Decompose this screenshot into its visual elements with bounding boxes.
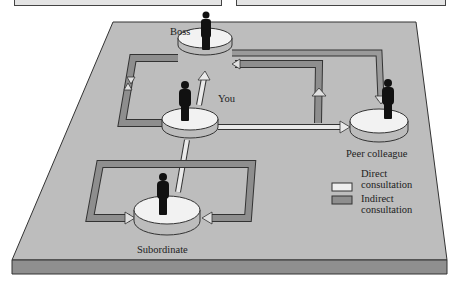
legend-direct-line2: consultation	[361, 179, 412, 190]
peer-disc	[350, 109, 408, 142]
node-label-peer: Peer colleague	[346, 148, 408, 159]
legend-swatch-direct	[332, 183, 352, 191]
platform-side	[12, 260, 447, 274]
legend-indirect-line1: Indirect	[361, 193, 394, 204]
legend-indirect-line2: consultation	[361, 204, 412, 215]
you-disc	[162, 108, 218, 138]
boss-figure-icon	[201, 12, 211, 51]
node-label-you: You	[218, 93, 235, 104]
node-label-subordinate: Subordinate	[137, 244, 188, 255]
consultation-diagram	[0, 0, 457, 288]
legend-swatch-indirect	[332, 196, 352, 204]
node-label-boss: Boss	[170, 26, 190, 37]
legend-direct-line1: Direct	[361, 168, 387, 179]
